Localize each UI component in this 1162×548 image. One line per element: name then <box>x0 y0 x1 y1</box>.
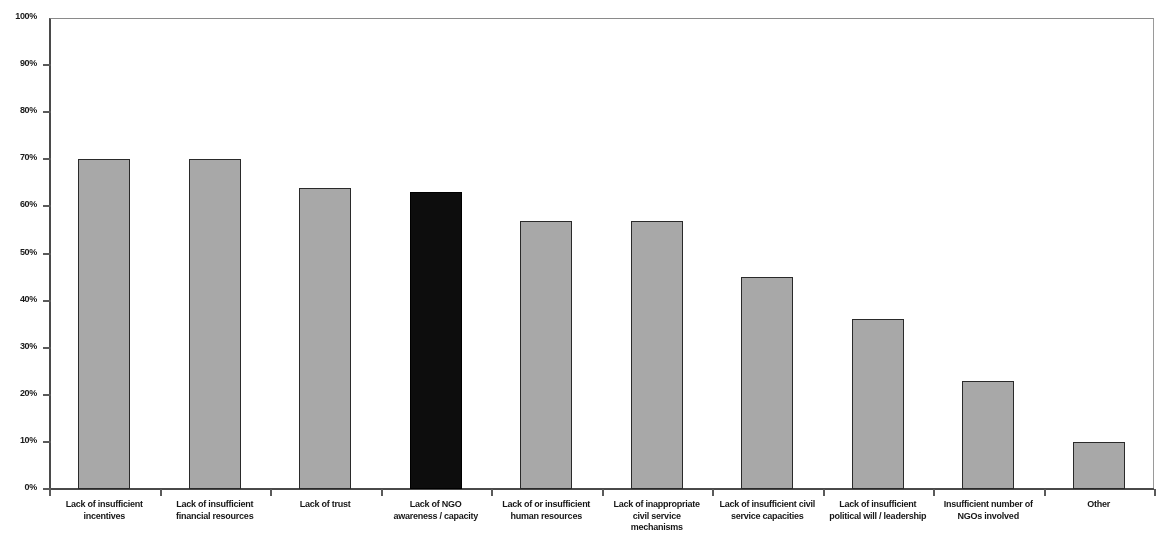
y-axis-tick-label: 70% <box>20 152 37 162</box>
x-axis-category-label-line: Lack of trust <box>270 499 381 511</box>
x-axis-category-label: Lack of or insufficienthuman resources <box>491 499 602 522</box>
bar[interactable] <box>189 159 241 489</box>
x-axis-tick-mark <box>160 489 162 496</box>
y-axis-tick-label: 90% <box>20 58 37 68</box>
x-axis-tick-mark <box>823 489 825 496</box>
x-axis-tick-mark <box>933 489 935 496</box>
x-axis-category-label: Lack of insufficientincentives <box>49 499 160 522</box>
x-axis-category-label: Lack of inappropriatecivil servicemechan… <box>602 499 713 534</box>
bar[interactable] <box>962 381 1014 489</box>
bar[interactable] <box>1073 442 1125 489</box>
bar[interactable] <box>78 159 130 489</box>
x-axis-category-label-line: NGOs involved <box>933 511 1044 523</box>
x-axis-category-label-line: incentives <box>49 511 160 523</box>
x-axis-labels: Lack of insufficientincentivesLack of in… <box>49 499 1154 548</box>
x-axis-tick-mark <box>49 489 51 496</box>
x-axis-category-label-line: Lack of insufficient <box>49 499 160 511</box>
y-axis-tick-label: 50% <box>20 247 37 257</box>
x-axis-category-label-line: Insufficient number of <box>933 499 1044 511</box>
bar[interactable] <box>852 319 904 489</box>
x-axis-category-label: Insufficient number ofNGOs involved <box>933 499 1044 522</box>
x-axis-tick-mark <box>381 489 383 496</box>
x-axis-category-label: Lack of trust <box>270 499 381 511</box>
bar[interactable] <box>520 221 572 489</box>
x-axis-category-label-line: Lack of insufficient civil <box>712 499 823 511</box>
bar[interactable] <box>741 277 793 489</box>
x-axis-category-label-line: civil service <box>602 511 713 523</box>
x-axis-tick-mark <box>491 489 493 496</box>
y-axis-tick-label: 30% <box>20 341 37 351</box>
x-axis-category-label-line: Lack of or insufficient <box>491 499 602 511</box>
x-axis-category-label-line: financial resources <box>160 511 271 523</box>
x-axis-category-label: Lack of insufficient civilservice capaci… <box>712 499 823 522</box>
x-axis-category-label-line: awareness / capacity <box>381 511 492 523</box>
x-axis-category-label: Other <box>1044 499 1155 511</box>
x-axis-category-label-line: mechanisms <box>602 522 713 534</box>
y-axis-tick-label: 100% <box>15 11 37 21</box>
x-axis-tick-mark <box>1044 489 1046 496</box>
x-axis-category-label: Lack of insufficientpolitical will / lea… <box>823 499 934 522</box>
x-axis-category-label-line: Other <box>1044 499 1155 511</box>
bar[interactable] <box>299 188 351 489</box>
y-axis-tick-label: 80% <box>20 105 37 115</box>
y-axis-tick-label: 20% <box>20 388 37 398</box>
x-axis-category-label-line: political will / leadership <box>823 511 934 523</box>
x-axis-category-label-line: service capacities <box>712 511 823 523</box>
bar-chart: 0%10%20%30%40%50%60%70%80%90%100% Lack o… <box>0 0 1162 548</box>
y-axis-tick-label: 40% <box>20 294 37 304</box>
x-axis-tick-mark <box>1154 489 1156 496</box>
x-axis-category-label-line: Lack of NGO <box>381 499 492 511</box>
bars-layer <box>49 18 1154 489</box>
x-axis-tick-mark <box>270 489 272 496</box>
y-axis-tick-label: 0% <box>25 482 37 492</box>
bar[interactable] <box>631 221 683 489</box>
x-axis-category-label: Lack of insufficientfinancial resources <box>160 499 271 522</box>
bar[interactable] <box>410 192 462 489</box>
y-axis-tick-label: 60% <box>20 199 37 209</box>
x-axis-tick-mark <box>602 489 604 496</box>
x-axis-category-label-line: Lack of insufficient <box>823 499 934 511</box>
x-axis-category-label-line: Lack of inappropriate <box>602 499 713 511</box>
x-axis-category-label-line: human resources <box>491 511 602 523</box>
y-axis-tick-label: 10% <box>20 435 37 445</box>
x-axis-category-label-line: Lack of insufficient <box>160 499 271 511</box>
x-axis-category-label: Lack of NGOawareness / capacity <box>381 499 492 522</box>
x-axis-tick-mark <box>712 489 714 496</box>
